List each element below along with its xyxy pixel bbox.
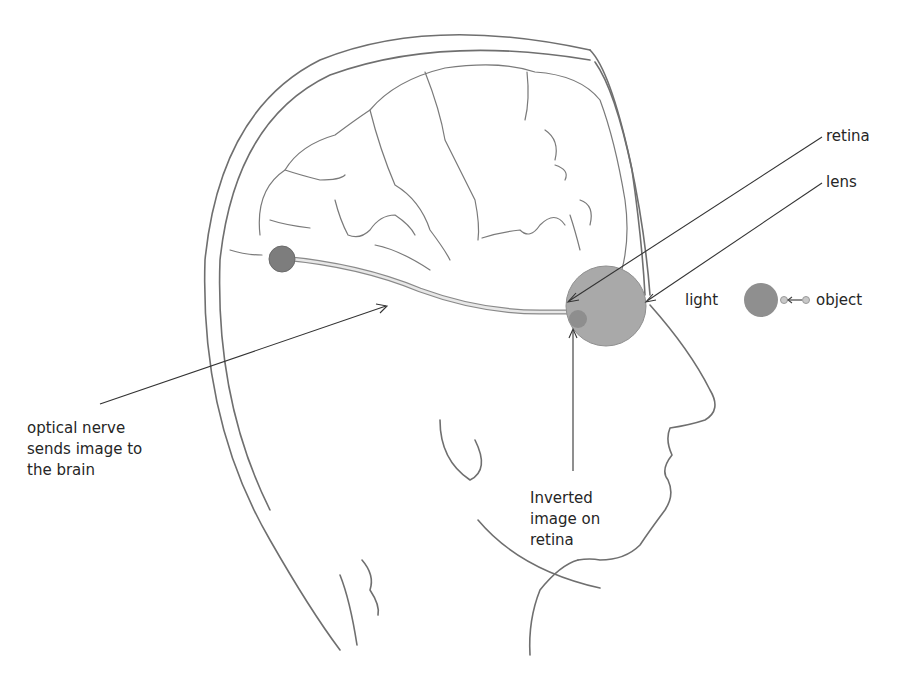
eye-brain-diagram: retina lens light object optical nerve s… <box>0 0 908 695</box>
neck-back <box>340 575 357 645</box>
label-optical-nerve-line-2: sends image to <box>27 439 142 460</box>
label-light: light <box>685 290 718 311</box>
label-optical-nerve-line-1: optical nerve <box>27 418 142 439</box>
lens-leader <box>647 183 822 301</box>
label-optical-nerve-line-3: the brain <box>27 460 142 481</box>
visual-cortex-dot <box>269 246 295 272</box>
label-inverted-image-line-2: image on <box>530 509 600 530</box>
label-lens: lens <box>826 172 857 193</box>
neck-back-2 <box>362 560 378 615</box>
brain-outline <box>259 65 627 290</box>
object-dot <box>803 297 810 304</box>
label-inverted-image: Inverted image on retina <box>530 488 600 551</box>
label-inverted-image-line-1: Inverted <box>530 488 600 509</box>
label-object: object <box>816 290 862 311</box>
head-back-line-2 <box>595 62 645 295</box>
ear-line <box>440 420 481 480</box>
label-inverted-image-line-3: retina <box>530 530 600 551</box>
label-optical-nerve: optical nerve sends image to the brain <box>27 418 142 481</box>
inverted-image-dot <box>569 310 587 328</box>
optic-nerve-leader <box>100 306 386 404</box>
skull-outline-inner <box>220 50 590 510</box>
skull-outline-outer <box>205 35 590 650</box>
retina-leader <box>569 137 822 301</box>
optic-nerve <box>282 258 572 312</box>
eyeball <box>566 266 646 346</box>
light-circle <box>744 283 778 317</box>
head-sketch <box>0 0 908 695</box>
label-retina: retina <box>826 126 870 147</box>
